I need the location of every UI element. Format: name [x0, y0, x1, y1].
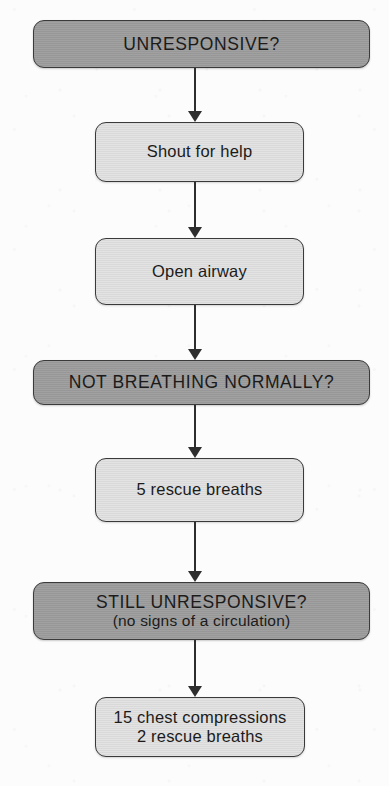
arrow-stem: [194, 182, 196, 227]
flow-node-unresponsive[interactable]: UNRESPONSIVE?: [33, 20, 370, 68]
arrow-stem: [194, 640, 196, 686]
flow-node-unresponsive-line-1: UNRESPONSIVE?: [123, 34, 280, 55]
arrow-head-icon: [188, 571, 202, 582]
flow-node-still-unresponsive-line-1: STILL UNRESPONSIVE?: [96, 592, 307, 613]
arrow-head-icon: [188, 686, 202, 697]
arrow-head-icon: [188, 111, 202, 122]
flow-node-open-airway[interactable]: Open airway: [95, 238, 304, 305]
flowchart-canvas: UNRESPONSIVE? Shout for help Open airway…: [0, 0, 389, 786]
flow-node-compressions-and-breaths-line-2: 2 rescue breaths: [137, 727, 263, 746]
flow-node-five-rescue-breaths-line-1: 5 rescue breaths: [136, 480, 262, 499]
arrow-head-icon: [188, 447, 202, 458]
arrow-head-icon: [188, 349, 202, 360]
flow-node-compressions-and-breaths-line-1: 15 chest compressions: [114, 708, 287, 727]
flow-node-not-breathing-normally-line-1: NOT BREATHING NORMALLY?: [69, 372, 335, 393]
flow-arrow-unresponsive-to-shout-for-help: [188, 68, 202, 122]
flow-node-still-unresponsive[interactable]: STILL UNRESPONSIVE? (no signs of a circu…: [33, 582, 370, 640]
flow-node-compressions-and-breaths[interactable]: 15 chest compressions 2 rescue breaths: [95, 697, 305, 757]
flow-arrow-shout-for-help-to-open-airway: [188, 182, 202, 238]
flow-arrow-still-unresponsive-to-compressions: [188, 640, 202, 697]
flow-arrow-open-airway-to-not-breathing: [188, 305, 202, 360]
arrow-head-icon: [188, 227, 202, 238]
flow-node-open-airway-line-1: Open airway: [152, 262, 247, 281]
flow-node-shout-for-help-line-1: Shout for help: [147, 142, 253, 161]
flow-node-five-rescue-breaths[interactable]: 5 rescue breaths: [95, 458, 304, 522]
flow-node-still-unresponsive-line-2: (no signs of a circulation): [113, 612, 291, 630]
arrow-stem: [194, 305, 196, 349]
arrow-stem: [194, 68, 196, 111]
arrow-stem: [194, 405, 196, 447]
flow-arrow-not-breathing-to-rescue-breaths: [188, 405, 202, 458]
flow-arrow-rescue-breaths-to-still-unresponsive: [188, 522, 202, 582]
arrow-stem: [194, 522, 196, 571]
flow-node-not-breathing-normally[interactable]: NOT BREATHING NORMALLY?: [33, 360, 370, 405]
flow-node-shout-for-help[interactable]: Shout for help: [95, 122, 304, 182]
